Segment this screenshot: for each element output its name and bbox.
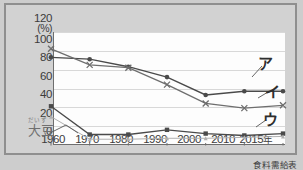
- data-point: [164, 82, 170, 88]
- chart-screenshot: 120 (%) 100 80 60 40 20 0 1960 1970 1980…: [0, 0, 303, 170]
- data-point: [165, 128, 169, 132]
- data-point: [48, 46, 54, 52]
- soybean-annotation-label: 大豆: [28, 124, 53, 137]
- soybean-annotation: だいず 大豆: [28, 118, 53, 137]
- series-label-i: イ: [265, 84, 280, 99]
- leader-lines: [50, 66, 268, 133]
- data-point: [281, 89, 286, 94]
- x-axis-ticks: [51, 143, 283, 146]
- data-point: [203, 131, 207, 135]
- data-point: [203, 93, 208, 98]
- data-point: [49, 55, 54, 60]
- data-point: [49, 104, 53, 108]
- series-label-a: ア: [258, 56, 273, 71]
- data-point: [242, 89, 247, 94]
- data-point: [126, 132, 130, 136]
- data-point: [87, 57, 92, 62]
- data-point: [165, 75, 170, 80]
- series-1: [49, 55, 286, 97]
- source-note: 食料需給表: [253, 158, 297, 170]
- series-3: [49, 104, 285, 138]
- chart-plot-svg: [0, 0, 303, 170]
- data-point: [87, 132, 91, 136]
- leader-line-soy2: [66, 125, 78, 133]
- series-label-u: ウ: [263, 112, 278, 127]
